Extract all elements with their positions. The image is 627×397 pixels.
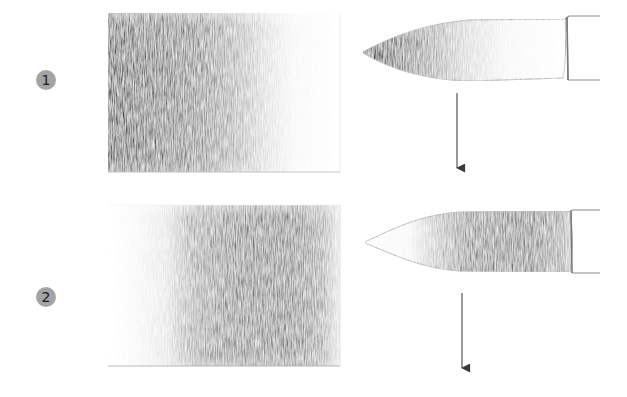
brush-1-bristles	[363, 19, 566, 81]
brush-shading-illustration: 1 2	[0, 0, 627, 397]
brush-2-ferrule	[570, 210, 600, 273]
illustration-canvas	[0, 0, 627, 397]
brush-2	[365, 210, 600, 273]
step-number-badge-2: 2	[36, 287, 56, 307]
step-number-badge-1: 1	[36, 70, 56, 90]
step-2-group	[108, 205, 600, 368]
step-1-group	[108, 13, 600, 172]
brush-1	[363, 16, 600, 81]
shading-swatch-2	[108, 205, 340, 366]
shading-swatch-1	[108, 13, 340, 172]
brush-2-bristles	[365, 211, 572, 272]
brush-1-ferrule	[565, 16, 600, 80]
